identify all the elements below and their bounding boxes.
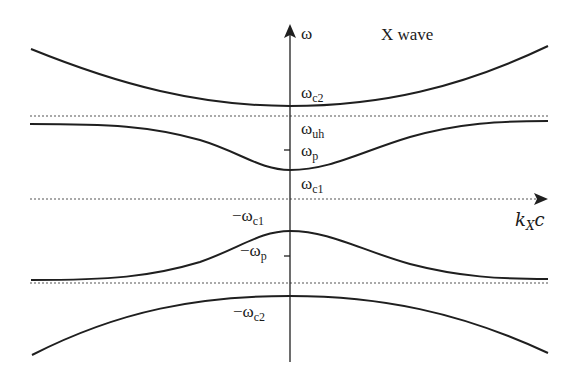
- neg-wc2-label: −ωc2: [233, 303, 265, 323]
- wc2-label: ωc2: [301, 84, 324, 104]
- neg-wc1-label: −ωc1: [232, 207, 264, 227]
- omega-axis-label: ω: [301, 25, 312, 42]
- diagram-title: X wave: [381, 26, 433, 43]
- dispersion-diagram: [0, 0, 576, 389]
- wc1-label: ωc1: [301, 175, 324, 195]
- k-axis-arrow-icon: [534, 193, 548, 205]
- lower-branch-curve: [30, 121, 548, 170]
- k-axis-label: kXc: [515, 211, 545, 232]
- neg-wp-label: −ωp: [240, 242, 267, 262]
- wuh-label: ωuh: [301, 120, 324, 140]
- wp-label: ωp: [301, 142, 318, 162]
